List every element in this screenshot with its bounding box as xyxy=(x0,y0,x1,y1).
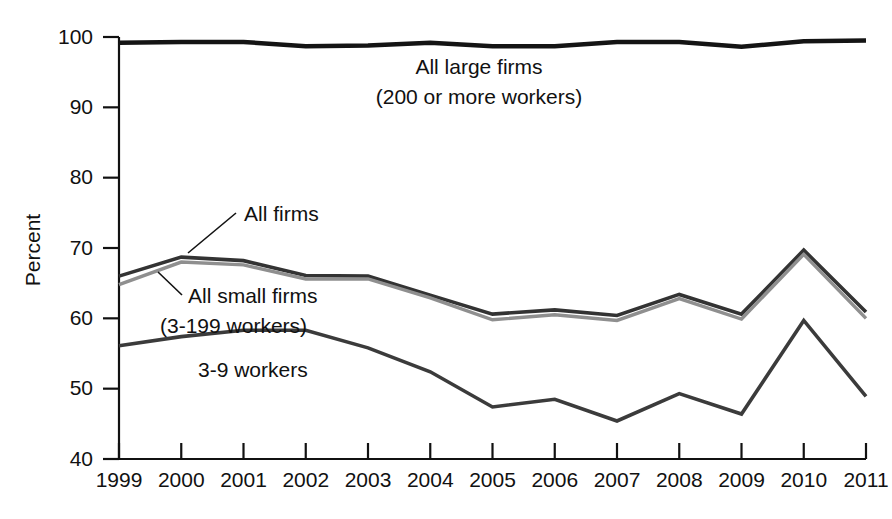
annotation-all-firms-label: All firms xyxy=(244,202,319,225)
x-axis-ticks xyxy=(119,443,866,459)
y-axis-tick-labels: 405060708090100 xyxy=(58,25,93,470)
x-tick-label-2005: 2005 xyxy=(469,468,516,491)
annotation-all-small-firms-line2: (3-199 workers) xyxy=(160,314,307,337)
y-tick-label-40: 40 xyxy=(70,447,93,470)
x-axis-tick-labels: 1999200020012002200320042005200620072008… xyxy=(96,468,889,491)
leader-line-all-small-firms xyxy=(158,272,182,295)
y-tick-label-60: 60 xyxy=(70,306,93,329)
series-line-all-large-firms xyxy=(119,41,866,47)
y-tick-label-70: 70 xyxy=(70,236,93,259)
x-tick-label-2009: 2009 xyxy=(718,468,765,491)
chart-container: 405060708090100 199920002001200220032004… xyxy=(0,0,892,519)
annotation-3-9-workers-label: 3-9 workers xyxy=(198,358,308,381)
x-tick-label-2008: 2008 xyxy=(656,468,703,491)
annotation-all-small-firms: All small firms (3-199 workers) xyxy=(158,272,318,337)
annotation-all-small-firms-line1: All small firms xyxy=(188,284,318,307)
x-tick-label-2000: 2000 xyxy=(158,468,205,491)
annotation-all-large-firms: All large firms (200 or more workers) xyxy=(376,55,583,108)
leader-line-all-firms xyxy=(188,213,236,253)
y-axis-ticks xyxy=(103,37,119,459)
x-tick-label-2004: 2004 xyxy=(407,468,454,491)
x-tick-label-2011: 2011 xyxy=(843,468,888,491)
annotation-large-firms-line1: All large firms xyxy=(415,55,542,78)
line-chart: 405060708090100 199920002001200220032004… xyxy=(0,0,892,519)
x-tick-label-2006: 2006 xyxy=(531,468,578,491)
x-tick-label-2001: 2001 xyxy=(220,468,267,491)
annotation-all-firms: All firms xyxy=(188,202,319,253)
y-axis-title: Percent xyxy=(21,214,44,287)
x-tick-label-2010: 2010 xyxy=(780,468,827,491)
x-tick-label-2003: 2003 xyxy=(345,468,392,491)
x-tick-label-2002: 2002 xyxy=(282,468,329,491)
x-tick-label-2007: 2007 xyxy=(594,468,641,491)
annotation-large-firms-line2: (200 or more workers) xyxy=(376,85,583,108)
y-tick-label-90: 90 xyxy=(70,95,93,118)
y-tick-label-100: 100 xyxy=(58,25,93,48)
x-tick-label-1999: 1999 xyxy=(96,468,143,491)
annotation-3-9-workers: 3-9 workers xyxy=(198,358,308,381)
y-tick-label-50: 50 xyxy=(70,376,93,399)
y-tick-label-80: 80 xyxy=(70,165,93,188)
